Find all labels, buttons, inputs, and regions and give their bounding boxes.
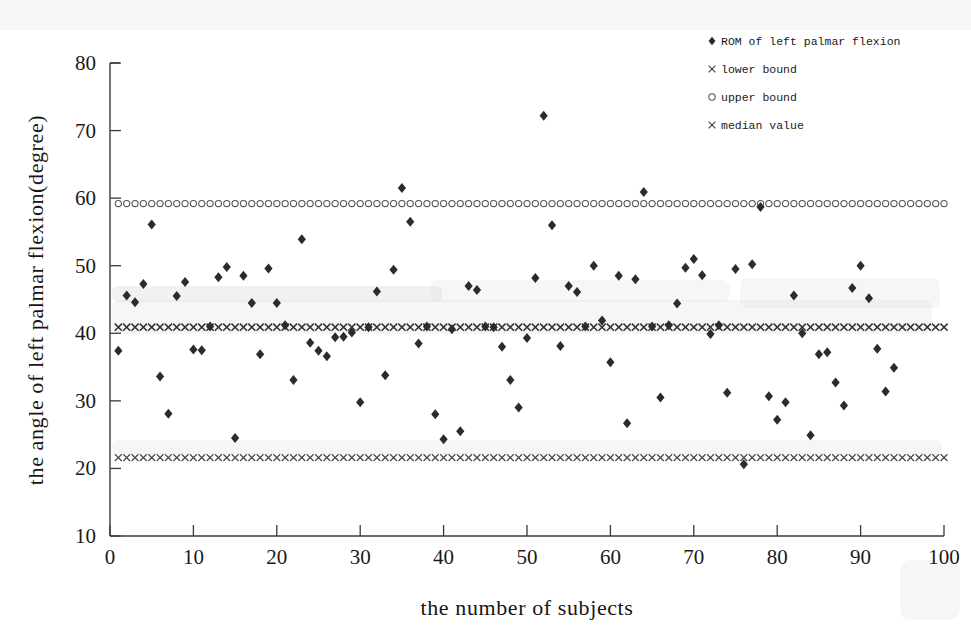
lower-bound-marker (715, 454, 722, 461)
rom-data-point (823, 347, 831, 357)
upper-bound-marker (941, 200, 947, 206)
lower-bound-marker (307, 454, 314, 461)
upper-bound-marker (799, 200, 805, 206)
legend-marker-circle (709, 94, 715, 100)
upper-bound-marker (282, 200, 288, 206)
upper-bound-marker (499, 200, 505, 206)
lower-bound-marker (807, 454, 814, 461)
rom-data-point (765, 391, 773, 401)
upper-bound-marker (432, 200, 438, 206)
rom-data-point (223, 262, 231, 272)
upper-bound-marker (807, 200, 813, 206)
lower-bound-marker (649, 454, 656, 461)
lower-bound-marker (532, 454, 539, 461)
rom-data-point (623, 418, 631, 428)
lower-bound-marker (707, 454, 714, 461)
upper-bound-marker (707, 200, 713, 206)
x-tick-label: 80 (767, 545, 788, 569)
lower-bound-marker (240, 454, 247, 461)
upper-bound-marker (916, 200, 922, 206)
rom-data-point (381, 370, 389, 380)
rom-data-point (431, 409, 439, 419)
lower-bound-marker (382, 454, 389, 461)
upper-bound-marker (324, 200, 330, 206)
upper-bound-marker (574, 200, 580, 206)
upper-bound-marker (599, 200, 605, 206)
lower-bound-marker (157, 454, 164, 461)
lower-bound-marker (140, 454, 147, 461)
lower-bound-marker (549, 454, 556, 461)
upper-bound-marker (140, 200, 146, 206)
upper-bound-marker (832, 200, 838, 206)
upper-bound-marker (858, 200, 864, 206)
lower-bound-marker (607, 454, 614, 461)
upper-bound-marker (257, 200, 263, 206)
upper-bound-marker (766, 200, 772, 206)
upper-bound-marker (516, 200, 522, 206)
lower-bound-marker (232, 454, 239, 461)
rom-data-point (256, 349, 264, 359)
upper-bound-marker (816, 200, 822, 206)
rom-data-point (540, 111, 548, 121)
lower-bound-marker (924, 454, 931, 461)
lower-bound-marker (732, 454, 739, 461)
rom-data-point (189, 345, 197, 355)
upper-bound-marker (441, 200, 447, 206)
lower-bound-marker (565, 454, 572, 461)
lower-bound-marker (449, 454, 456, 461)
upper-bound-marker (357, 200, 363, 206)
rom-data-point (840, 401, 848, 411)
upper-bound-marker (199, 200, 205, 206)
y-tick-label: 50 (75, 254, 96, 278)
upper-bound-marker (149, 200, 155, 206)
rom-data-point (114, 346, 122, 356)
upper-bound-marker (524, 200, 530, 206)
upper-bound-marker (240, 200, 246, 206)
lower-bound-marker (874, 454, 881, 461)
rom-data-point (781, 397, 789, 407)
x-tick-label: 40 (433, 545, 454, 569)
x-tick-label: 100 (928, 545, 960, 569)
upper-bound-marker (274, 200, 280, 206)
rom-data-point (748, 259, 756, 269)
lower-bound-marker (365, 454, 372, 461)
upper-bound-marker (774, 200, 780, 206)
upper-bound-marker (782, 200, 788, 206)
rom-data-point (498, 342, 506, 352)
upper-bound-marker (591, 200, 597, 206)
upper-bound-marker (549, 200, 555, 206)
upper-bound-marker (908, 200, 914, 206)
rom-data-point (640, 187, 648, 197)
upper-bound-marker (666, 200, 672, 206)
upper-bound-marker (507, 200, 513, 206)
rom-data-point (548, 220, 556, 230)
lower-bound-marker (357, 454, 364, 461)
upper-bound-marker (657, 200, 663, 206)
upper-bound-marker (415, 200, 421, 206)
lower-bound-marker (891, 454, 898, 461)
lower-bound-marker (332, 454, 339, 461)
upper-bound-marker (390, 200, 396, 206)
legend-marker-x (709, 122, 716, 129)
lower-bound-marker (490, 454, 497, 461)
upper-bound-marker (182, 200, 188, 206)
lower-bound-marker (132, 454, 139, 461)
upper-bound-marker (374, 200, 380, 206)
rom-data-point (148, 219, 156, 229)
lower-bound-marker (373, 454, 380, 461)
rom-data-point (314, 346, 322, 356)
lower-bound-marker (849, 454, 856, 461)
lower-bound-marker (499, 454, 506, 461)
upper-bound-marker (899, 200, 905, 206)
lower-bound-marker (841, 454, 848, 461)
lower-bound-marker (265, 454, 272, 461)
rom-data-point (873, 344, 881, 354)
upper-bound-marker (749, 200, 755, 206)
upper-bound-marker (541, 200, 547, 206)
lower-bound-marker (782, 454, 789, 461)
rom-data-point (214, 272, 222, 282)
upper-bound-marker (607, 200, 613, 206)
rom-data-point (156, 372, 164, 382)
lower-bound-marker (148, 454, 155, 461)
lower-bound-marker (198, 454, 205, 461)
